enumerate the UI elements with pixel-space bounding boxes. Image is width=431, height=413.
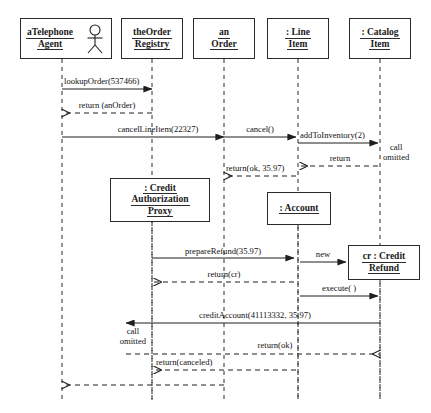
message-label-m11: return(cr) [208, 270, 241, 280]
participant-name-line: theOrder [132, 27, 172, 38]
message-label-m12: execute( ) [322, 284, 356, 294]
participant-label-telephone-agent: aTelephoneAgent [26, 27, 74, 50]
participant-name-line: Registry [134, 39, 170, 50]
participant-name-line: Item [287, 39, 308, 50]
message-label-m7: return [330, 154, 351, 164]
participant-name-line: : Credit [143, 183, 177, 194]
participant-label-order-registry: theOrderRegistry [132, 27, 172, 50]
message-label-m8: return(ok, 35.97) [226, 164, 284, 174]
participant-box-an-order[interactable]: anOrder [193, 18, 255, 59]
message-label-m6: callomitted [383, 143, 409, 162]
message-label-m13: creditAccount(41113332, 35.97) [199, 311, 311, 321]
message-label-m2: return (anOrder) [79, 101, 136, 111]
participant-name-line: Agent [37, 39, 63, 50]
participant-box-credit-authorization-proxy[interactable]: : CreditAuthorizationProxy [110, 178, 210, 222]
participant-label-account: : Account [279, 203, 320, 214]
participant-name-line: cr : Credit [362, 251, 406, 262]
participant-name-line: Order [210, 39, 237, 50]
message-label-m9: prepareRefund(35.97) [185, 247, 261, 257]
participant-box-credit-refund[interactable]: cr : CreditRefund [348, 245, 420, 280]
participant-label-an-order: anOrder [210, 27, 237, 50]
participant-name-line: : Account [279, 203, 320, 214]
participant-name-line: Proxy [147, 206, 173, 217]
participant-name-line: : Catalog [360, 27, 399, 38]
participant-box-line-item[interactable]: : LineItem [267, 18, 329, 59]
participant-name-line: Authorization [131, 194, 190, 205]
participant-label-credit-authorization-proxy: : CreditAuthorizationProxy [131, 183, 190, 217]
participant-label-credit-refund: cr : CreditRefund [362, 251, 406, 274]
participant-name-line: aTelephone [26, 27, 74, 38]
message-label-m5: addToInventory(2) [300, 131, 365, 141]
participant-name-line: an [218, 27, 230, 38]
participant-name-line: Item [369, 39, 390, 50]
message-label-m14: callomitted [120, 327, 146, 346]
actor-stick-figure-icon [84, 24, 106, 54]
diagram-vector-layer [0, 0, 431, 413]
participant-name-line: : Line [285, 27, 311, 38]
participant-name-line: Refund [368, 263, 400, 274]
message-label-m10: new [316, 250, 330, 260]
participant-box-order-registry[interactable]: theOrderRegistry [121, 18, 183, 59]
participant-label-line-item: : LineItem [285, 27, 311, 50]
uml-sequence-diagram: aTelephoneAgenttheOrderRegistryanOrder: … [0, 0, 431, 413]
message-label-m4: cancel() [246, 125, 274, 135]
participant-box-telephone-agent[interactable]: aTelephoneAgent [20, 18, 112, 59]
message-label-m3: cancelLineItem(22327) [118, 125, 199, 135]
participant-box-account[interactable]: : Account [267, 192, 331, 225]
message-label-m1: lookupOrder(537466) [64, 77, 139, 87]
message-label-m15: return(ok) [258, 341, 293, 351]
message-label-m16: return(canceled) [156, 358, 212, 368]
participant-label-catalog-item: : CatalogItem [360, 27, 399, 50]
participant-box-catalog-item[interactable]: : CatalogItem [349, 18, 411, 59]
